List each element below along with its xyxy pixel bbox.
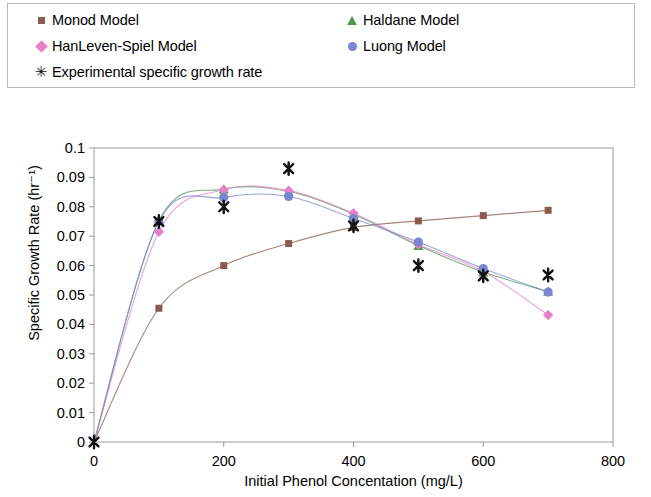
- x-marker-icon: ✳: [30, 65, 52, 80]
- circle-marker-icon: [544, 287, 553, 296]
- y-axis-tick-label: 0.03: [57, 346, 85, 362]
- legend-item-hanleven-spiel: HanLeven-Spiel Model: [30, 38, 197, 54]
- legend-label: Monod Model: [52, 12, 139, 28]
- legend-label: Haldane Model: [363, 12, 459, 28]
- triangle-marker-icon: [341, 16, 363, 25]
- y-axis-tick-label: 0.05: [57, 287, 85, 303]
- square-marker-icon: [155, 305, 162, 312]
- y-axis-tick-label: 0.01: [57, 405, 85, 421]
- square-marker-icon: [480, 212, 487, 219]
- y-axis-tick-label: 0.08: [57, 199, 85, 215]
- square-marker-icon: [545, 207, 552, 214]
- diamond-marker-icon: [30, 42, 52, 51]
- y-axis-label: Specific Growth Rate (hr⁻¹): [26, 123, 42, 383]
- chart-legend: Monod Model Haldane Model HanLeven-Spiel…: [7, 3, 635, 88]
- chart-plot-area: 00.010.020.030.040.050.060.070.080.090.1…: [0, 95, 651, 497]
- circle-marker-icon: [341, 42, 363, 51]
- legend-item-experimental: ✳ Experimental specific growth rate: [30, 64, 262, 80]
- legend-label: Experimental specific growth rate: [52, 64, 262, 80]
- legend-item-luong: Luong Model: [341, 38, 446, 54]
- square-marker-icon: [30, 17, 52, 24]
- legend-item-monod: Monod Model: [30, 12, 139, 28]
- legend-item-haldane: Haldane Model: [341, 12, 459, 28]
- x-axis-label: Initial Phenol Concentation (mg/L): [94, 473, 613, 489]
- x-axis-tick-label: 200: [212, 453, 236, 469]
- square-marker-icon: [220, 262, 227, 269]
- y-axis-tick-label: 0: [77, 434, 85, 450]
- x-axis-tick-label: 600: [471, 453, 495, 469]
- y-axis-tick-label: 0.07: [57, 228, 85, 244]
- chart-canvas: 00.010.020.030.040.050.060.070.080.090.1…: [0, 95, 651, 497]
- legend-label: HanLeven-Spiel Model: [52, 38, 197, 54]
- x-axis-tick-label: 0: [90, 453, 98, 469]
- y-axis-tick-label: 0.06: [57, 258, 85, 274]
- y-axis-tick-label: 0.04: [57, 316, 85, 332]
- square-marker-icon: [285, 240, 292, 247]
- legend-label: Luong Model: [363, 38, 446, 54]
- y-axis-tick-label: 0.02: [57, 375, 85, 391]
- y-axis-tick-label: 0.1: [65, 140, 85, 156]
- circle-marker-icon: [284, 192, 293, 201]
- y-axis-tick-label: 0.09: [57, 169, 85, 185]
- circle-marker-icon: [414, 237, 423, 246]
- x-axis-tick-label: 400: [341, 453, 365, 469]
- figure-root: Monod Model Haldane Model HanLeven-Spiel…: [0, 0, 651, 497]
- square-marker-icon: [415, 217, 422, 224]
- x-axis-tick-label: 800: [601, 453, 625, 469]
- plot-frame: [94, 148, 613, 442]
